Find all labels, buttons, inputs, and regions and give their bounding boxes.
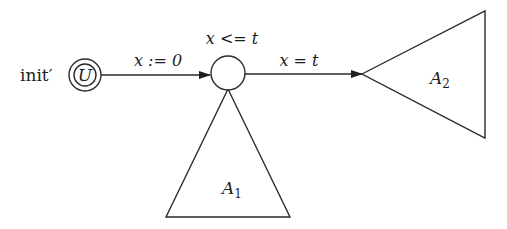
subautomaton-a2[interactable]: A2 <box>362 11 485 138</box>
edge-label-reset: x := 0 <box>134 51 182 70</box>
init-label: init′ <box>20 65 53 85</box>
edge-init-to-middle[interactable]: x := 0 <box>101 51 210 75</box>
invariant-label: x <= t <box>206 29 259 48</box>
automaton-diagram: init′ U x := 0 x <= t A1 x = t A2 <box>0 0 507 229</box>
subautomaton-a1[interactable]: A1 <box>166 89 290 217</box>
middle-state[interactable] <box>211 56 245 90</box>
initial-state-u[interactable]: U <box>69 59 101 91</box>
initial-state-label: U <box>78 65 93 85</box>
edge-label-guard: x = t <box>279 51 319 70</box>
subautomaton-a2-triangle <box>362 11 485 138</box>
edge-middle-to-a2[interactable]: x = t <box>245 51 362 74</box>
